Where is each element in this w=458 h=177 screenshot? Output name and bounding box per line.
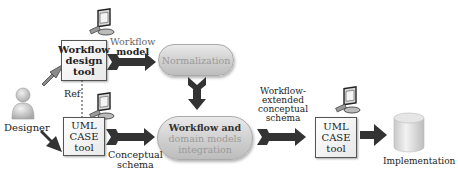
label-line: schema — [108, 160, 163, 170]
arrow-right-icon — [257, 126, 307, 148]
arrow-down-right-icon — [38, 128, 64, 154]
normalization-process: Normalization — [158, 44, 234, 76]
box-line: design — [65, 55, 102, 66]
ref-label: Ref — [64, 89, 80, 99]
uml-case-tool-box-2: UML CASE tool — [315, 117, 357, 158]
box-line: tool — [74, 142, 93, 153]
arrow-right-icon — [106, 126, 156, 148]
box-line: tool — [73, 66, 95, 77]
database-cylinder-icon — [393, 112, 425, 154]
arrow-down-icon — [187, 77, 207, 111]
normalization-label: Normalization — [162, 55, 231, 66]
box-line: Workflow — [58, 44, 110, 55]
label-line: schema — [258, 114, 308, 123]
workflow-design-tool-box: Workflow design tool — [61, 40, 107, 81]
box-line: UML — [71, 120, 96, 131]
integration-line: Workflow and — [169, 122, 242, 133]
workflow-extended-schema-label: Workflow- extended conceptual schema — [258, 87, 308, 123]
integration-process: Workflow and domain models integration — [157, 116, 253, 160]
computer-icon — [334, 88, 364, 118]
implementation-label: Implementation — [383, 156, 455, 166]
person-icon — [10, 86, 36, 120]
conceptual-schema-label: Conceptual schema — [108, 150, 163, 170]
integration-line: integration — [169, 144, 242, 155]
box-line: CASE — [69, 131, 98, 142]
ref-dashed-line — [80, 80, 84, 118]
integration-line: domain models — [169, 133, 242, 144]
arrow-right-icon — [360, 123, 388, 147]
box-line: CASE — [321, 132, 350, 143]
box-line: UML — [323, 121, 348, 132]
arrow-right-icon — [107, 51, 157, 73]
box-line: tool — [326, 143, 345, 154]
uml-case-tool-box: UML CASE tool — [63, 117, 105, 156]
